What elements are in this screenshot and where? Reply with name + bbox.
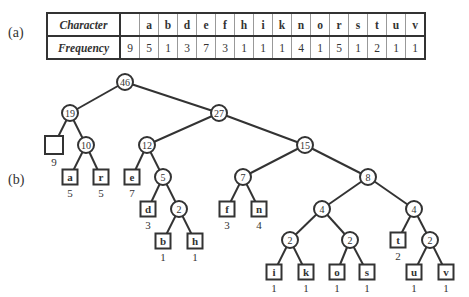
leaf-frequency: 1: [334, 282, 340, 294]
internal-node: 5: [155, 169, 171, 185]
leaf-node: a5: [63, 170, 78, 199]
leaf-node: b1: [156, 234, 171, 263]
tree-nodes: 4619271012155782442229a5r5e7d3f3n4b1h1t2…: [45, 74, 454, 294]
leaf-char: v: [443, 266, 449, 278]
node-weight: 10: [81, 140, 91, 151]
leaf-frequency: 5: [67, 187, 73, 199]
leaf-char: u: [411, 266, 417, 278]
internal-node: 2: [171, 201, 187, 217]
leaf-node: r5: [94, 170, 109, 199]
internal-node: 4: [406, 201, 422, 217]
internal-node: 7: [235, 169, 251, 185]
leaf-node: f3: [220, 202, 235, 231]
leaf-frequency: 9: [51, 156, 57, 168]
tree-edge: [125, 82, 219, 113]
node-weight: 12: [142, 140, 152, 151]
tree-edge: [243, 145, 305, 177]
leaf-char: b: [160, 235, 166, 247]
node-weight: 27: [214, 108, 224, 119]
leaf-frequency: 1: [271, 282, 277, 294]
leaf-char: t: [396, 234, 400, 246]
tree-edge: [305, 145, 368, 177]
internal-node: 8: [360, 169, 376, 185]
leaf-node: t2: [391, 233, 406, 262]
leaf-node: v1: [439, 265, 454, 294]
leaf-char: d: [145, 203, 151, 215]
leaf-node: 9: [45, 136, 63, 168]
internal-node: 2: [282, 232, 298, 248]
leaf-frequency: 3: [224, 219, 230, 231]
node-weight: 5: [161, 172, 166, 183]
leaf-frequency: 3: [145, 219, 151, 231]
leaf-frequency: 1: [160, 251, 166, 263]
leaf-frequency: 4: [256, 219, 262, 231]
leaf-char: e: [130, 171, 135, 183]
internal-node: 4: [314, 201, 330, 217]
leaf-frequency: 2: [395, 250, 401, 262]
node-weight: 19: [65, 108, 75, 119]
huffman-tree: 4619271012155782442229a5r5e7d3f3n4b1h1t2…: [0, 0, 469, 297]
node-weight: 2: [177, 204, 182, 215]
tree-edge: [70, 82, 125, 113]
internal-node: 2: [422, 232, 438, 248]
tree-edge: [147, 113, 219, 145]
leaf-char: a: [67, 171, 73, 183]
leaf-char: f: [225, 203, 229, 215]
node-weight: 2: [288, 235, 293, 246]
leaf-node: i1: [267, 265, 282, 294]
internal-node: 46: [117, 74, 133, 90]
leaf-node: d3: [141, 202, 156, 231]
internal-node: 12: [139, 137, 155, 153]
internal-node: 19: [62, 105, 78, 121]
leaf-node: e7: [125, 170, 140, 199]
internal-node: 2: [342, 232, 358, 248]
node-weight: 7: [241, 172, 246, 183]
leaf-char: n: [256, 203, 262, 215]
leaf-char: h: [192, 235, 198, 247]
leaf-frequency: 7: [129, 187, 135, 199]
leaf-frequency: 1: [443, 282, 449, 294]
node-weight: 8: [366, 172, 371, 183]
node-weight: 15: [300, 140, 310, 151]
leaf-char: i: [272, 266, 275, 278]
leaf-node: o1: [330, 265, 345, 294]
node-weight: 2: [428, 235, 433, 246]
node-weight: 4: [412, 204, 417, 215]
leaf-char: r: [99, 171, 104, 183]
leaf-frequency: 1: [192, 251, 198, 263]
leaf-node: n4: [252, 202, 267, 231]
leaf-frequency: 1: [411, 282, 417, 294]
internal-node: 15: [297, 137, 313, 153]
internal-node: 10: [78, 137, 94, 153]
tree-edge: [219, 113, 305, 145]
leaf-char: k: [303, 266, 310, 278]
leaf-node: u1: [407, 265, 422, 294]
leaf-node: h1: [188, 234, 203, 263]
leaf-char: s: [365, 266, 370, 278]
node-weight: 46: [120, 77, 130, 88]
node-weight: 2: [348, 235, 353, 246]
leaf-frequency: 1: [364, 282, 370, 294]
leaf-char: o: [334, 266, 340, 278]
leaf-node: k1: [299, 265, 314, 294]
leaf-node: s1: [360, 265, 375, 294]
leaf-frequency: 5: [98, 187, 104, 199]
leaf-box: [45, 136, 63, 154]
node-weight: 4: [320, 204, 325, 215]
internal-node: 27: [211, 105, 227, 121]
leaf-frequency: 1: [303, 282, 309, 294]
